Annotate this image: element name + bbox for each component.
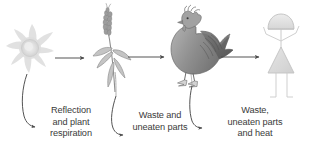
chicken-icon bbox=[171, 5, 233, 87]
loss-label-2-line-2: uneaten parts bbox=[117, 122, 203, 134]
wheat-plant-icon bbox=[93, 3, 131, 96]
loss-label-3-line-2: uneaten parts bbox=[205, 117, 305, 129]
loss-label-1-line-1: Reflection bbox=[28, 105, 114, 117]
loss-label-3-line-3: and heat bbox=[205, 128, 305, 140]
energy-flow-diagram: Reflection and plant respiration Waste a… bbox=[0, 0, 310, 154]
stick-figure-person-icon bbox=[264, 14, 300, 97]
loss-label-2-line-1: Waste and bbox=[117, 110, 203, 122]
sun-swirl-icon bbox=[6, 24, 54, 73]
loss-label-1-line-3: respiration bbox=[28, 128, 114, 140]
loss-label-waste-and-uneaten-parts: Waste and uneaten parts bbox=[117, 110, 203, 133]
loss-label-1-line-2: and plant bbox=[28, 117, 114, 129]
loss-label-3-line-1: Waste, bbox=[205, 105, 305, 117]
loss-label-waste-uneaten-parts-and-heat: Waste, uneaten parts and heat bbox=[205, 105, 305, 140]
loss-label-reflection-and-plant-respiration: Reflection and plant respiration bbox=[28, 105, 114, 140]
